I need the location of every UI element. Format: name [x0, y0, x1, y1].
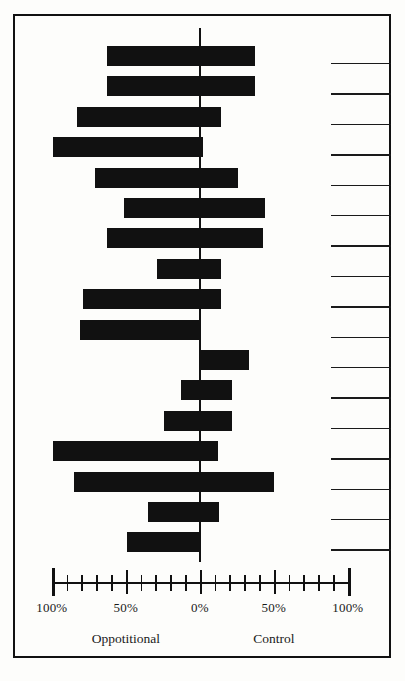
- label-rule-14: [331, 458, 391, 459]
- bar-row-17: [127, 532, 200, 552]
- label-rule-13: [331, 428, 391, 429]
- bar-row-6: [124, 198, 265, 218]
- label-rule-16: [331, 519, 391, 520]
- bar-row-16: [148, 502, 219, 522]
- label-rule-8: [331, 276, 391, 277]
- label-rule-3: [331, 124, 391, 125]
- bar-row-4: [53, 137, 202, 157]
- bar-row-11: [200, 350, 249, 370]
- label-rule-7: [331, 245, 391, 246]
- bar-row-15: [74, 472, 274, 492]
- label-rule-5: [331, 185, 391, 186]
- bar-row-5: [95, 168, 239, 188]
- label-rule-4: [331, 154, 391, 155]
- bar-row-14: [53, 441, 217, 461]
- bar-row-10: [80, 320, 200, 340]
- bar-row-2: [107, 76, 255, 96]
- label-rule-2: [331, 93, 391, 94]
- bar-row-3: [77, 107, 221, 127]
- bar-row-1: [107, 46, 255, 66]
- plot-area: [0, 0, 405, 681]
- bar-row-12: [181, 380, 233, 400]
- bar-row-8: [157, 259, 221, 279]
- bar-row-7: [107, 228, 264, 248]
- label-rule-17: [331, 549, 391, 550]
- label-rule-12: [331, 397, 391, 398]
- figure-container: 100%50%0%50%100% OppotitionalControl: [0, 0, 405, 681]
- label-rule-9: [331, 306, 391, 307]
- bar-row-13: [164, 411, 232, 431]
- label-rule-11: [331, 367, 391, 368]
- label-rule-1: [331, 63, 391, 64]
- label-rule-15: [331, 489, 391, 490]
- label-rule-6: [331, 215, 391, 216]
- bar-row-9: [83, 289, 221, 309]
- label-rule-10: [331, 337, 391, 338]
